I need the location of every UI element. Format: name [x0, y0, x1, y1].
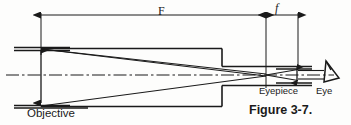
figure-telescope-diagram: F f Objective Eyepiece Eye Figure 3-7.	[0, 0, 351, 125]
dimension-label-F: F	[158, 5, 165, 17]
light-rays	[41, 49, 298, 106]
figure-caption: Figure 3-7.	[249, 104, 312, 117]
component-label-objective: Objective	[27, 108, 75, 120]
eyepiece-lens	[276, 67, 312, 86]
component-label-eye: Eye	[316, 86, 332, 96]
eye-icon	[324, 61, 339, 82]
dimension-label-f: f	[275, 2, 278, 14]
component-label-eyepiece: Eyepiece	[259, 86, 298, 96]
telescope-tube	[41, 49, 276, 107]
objective-lens	[14, 48, 88, 109]
